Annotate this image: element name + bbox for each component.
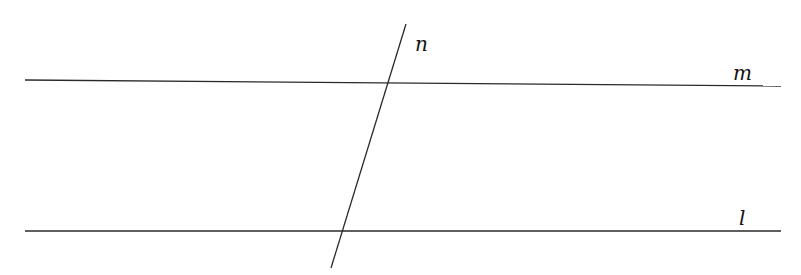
parallel-lines-transversal-diagram: n m l [0, 0, 801, 275]
label-m: m [733, 61, 752, 85]
label-n: n [415, 32, 428, 56]
line-m [25, 80, 781, 86]
label-l: l [739, 206, 745, 230]
